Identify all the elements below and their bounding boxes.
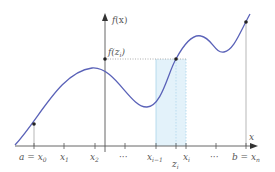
f-zi-axis-point [103,57,107,61]
y-axis-label: f(x) [111,15,127,25]
start-point [32,122,36,126]
f-zi-label: f(zi) [107,47,126,58]
tick-label-dots-2: ··· [210,152,219,162]
sample-point [174,57,178,61]
tick-label-dots-1: ··· [119,152,128,162]
x-axis-label: x [249,132,254,142]
tick-label-xn: b = xn [232,152,260,163]
tick-label-xi: xi [183,152,190,163]
y-axis-arrow-icon [102,13,108,21]
x-axis-arrow-icon [250,143,258,149]
function-curve [15,14,250,145]
diagram-canvas: f(x) f(zi) x a = x0 x1 x2 ··· xi−1 zi xi… [0,0,275,172]
tick-label-x2: x2 [90,152,99,163]
end-point [244,20,248,24]
tick-label-zi: zi [171,159,179,170]
riemann-diagram: f(x) f(zi) x a = x0 x1 x2 ··· xi−1 zi xi… [0,0,275,172]
shaded-subinterval-rect [156,59,186,146]
tick-label-xi-minus-1: xi−1 [147,152,163,163]
tick-label-x1: x1 [60,152,69,163]
tick-label-x0: a = x0 [19,152,47,163]
